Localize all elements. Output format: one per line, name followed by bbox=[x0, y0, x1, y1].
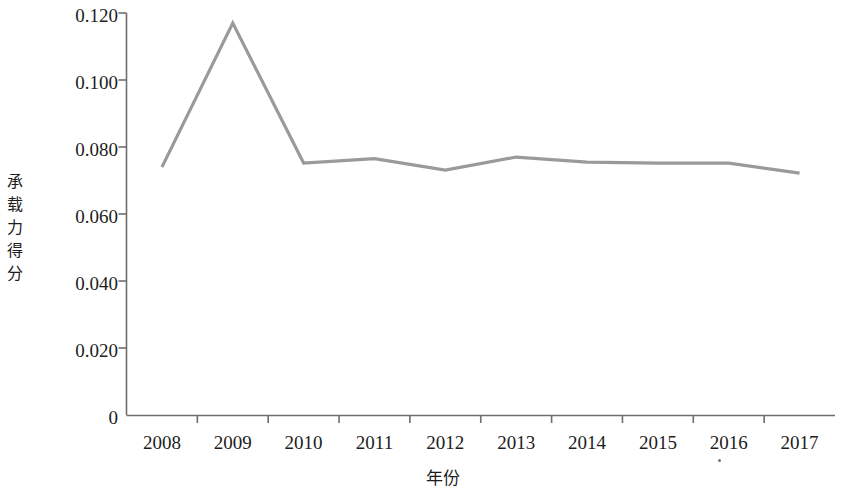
x-tick-label: 2017 bbox=[760, 432, 840, 454]
scan-speck bbox=[718, 459, 721, 462]
x-tick-label: 2008 bbox=[122, 432, 202, 454]
x-axis-title: 年份 bbox=[0, 468, 846, 490]
x-tick-label: 2015 bbox=[618, 432, 698, 454]
y-axis-ticks bbox=[119, 13, 127, 348]
plot-area bbox=[0, 0, 846, 503]
x-tick-label: 2013 bbox=[476, 432, 556, 454]
x-tick-label: 2016 bbox=[689, 432, 769, 454]
chart-container: 承 载 力 得 分 0.120 0.100 0.080 0.060 0.040 … bbox=[0, 0, 846, 503]
x-tick-label: 2012 bbox=[405, 432, 485, 454]
x-tick-label: 2009 bbox=[193, 432, 273, 454]
x-axis-tick-labels: 2008200920102011201220132014201520162017 bbox=[0, 432, 846, 462]
x-tick-label: 2014 bbox=[547, 432, 627, 454]
data-series-line bbox=[162, 23, 800, 173]
x-tick-label: 2011 bbox=[335, 432, 415, 454]
x-tick-label: 2010 bbox=[264, 432, 344, 454]
